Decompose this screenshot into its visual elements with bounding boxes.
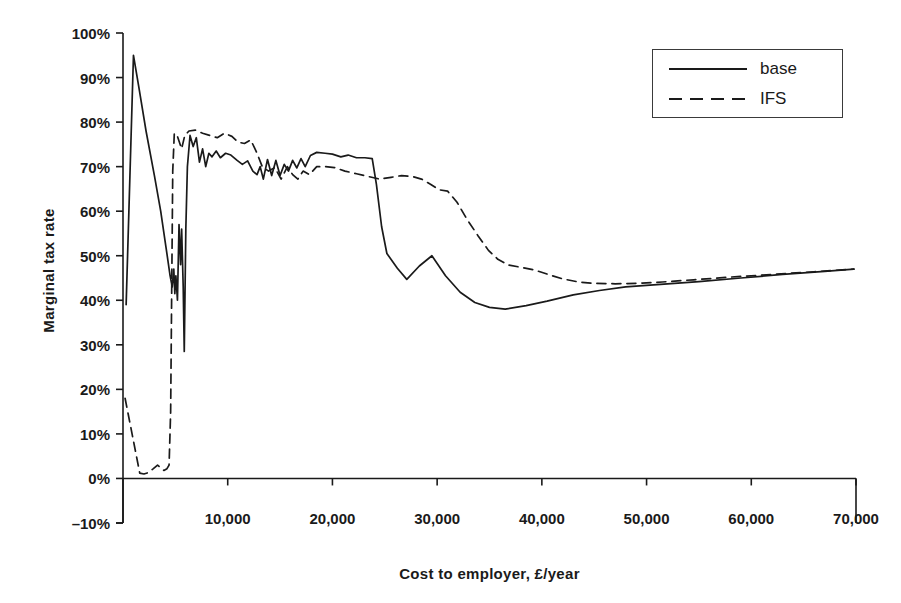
legend-item-base: base	[653, 55, 842, 83]
legend-label-base: base	[760, 55, 797, 83]
legend-label-ifs: IFS	[760, 85, 786, 113]
legend-key-solid-line-icon	[669, 68, 747, 70]
series-line-ifs	[125, 130, 854, 474]
legend-item-ifs: IFS	[653, 85, 842, 113]
x-axis-title: Cost to employer, £/year	[123, 565, 856, 582]
legend-key-dashed-line-icon	[669, 98, 747, 100]
chart-figure: Marginal tax rate 100%90%80%70%60%50%40%…	[0, 0, 901, 603]
legend: base IFS	[652, 49, 843, 118]
